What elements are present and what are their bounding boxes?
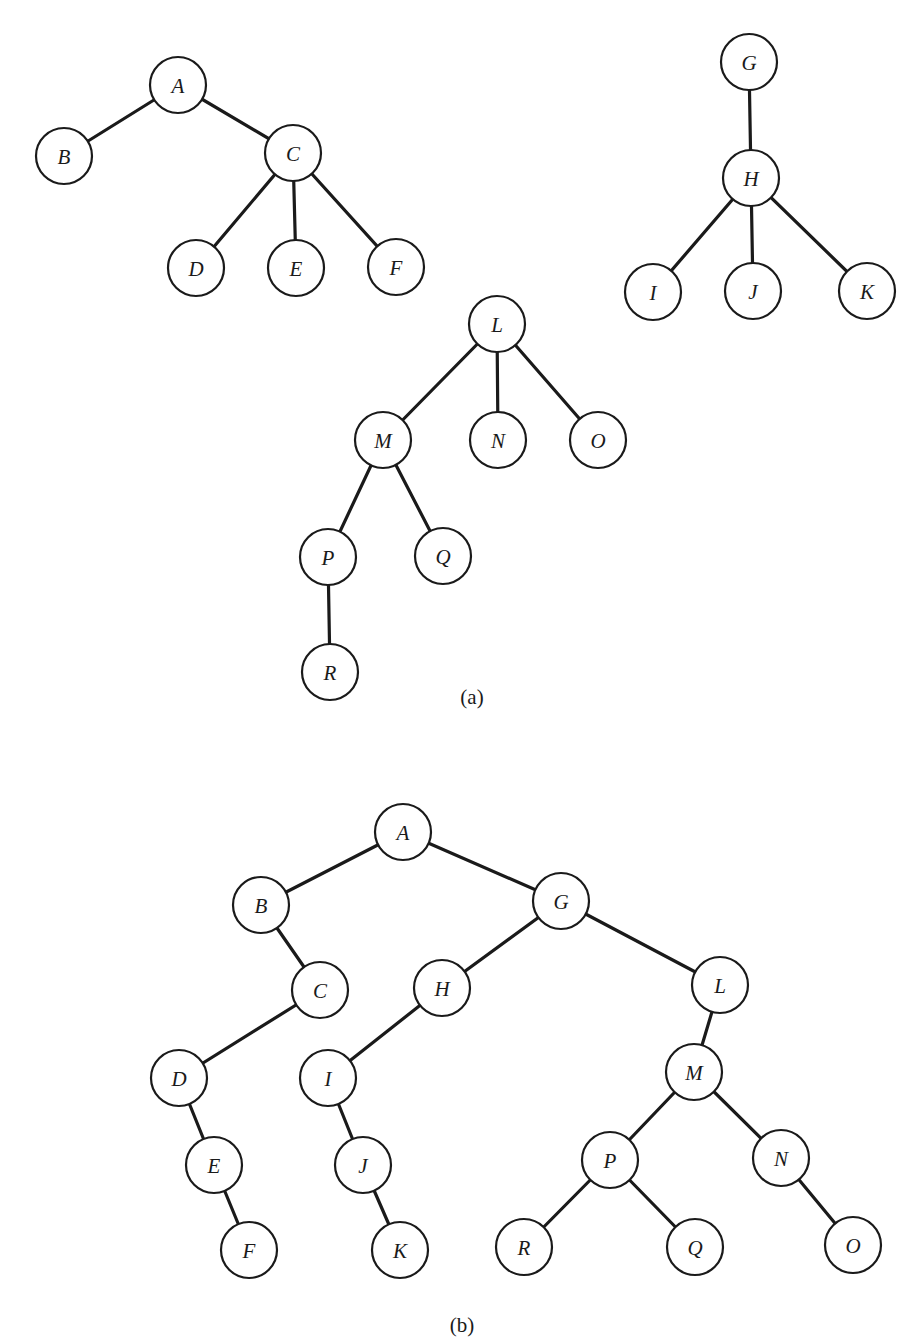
node-label: A xyxy=(170,74,185,98)
node-label: F xyxy=(242,1239,256,1263)
node-label: G xyxy=(741,51,756,75)
node-label: P xyxy=(603,1149,617,1173)
tree-node-f: F xyxy=(221,1222,277,1278)
tree-node-i: I xyxy=(300,1050,356,1106)
tree-node-b: B xyxy=(233,877,289,933)
tree-node-o: O xyxy=(825,1217,881,1273)
node-label: E xyxy=(207,1154,221,1178)
node-label: L xyxy=(713,974,726,998)
node-label: N xyxy=(490,429,506,453)
node-label: M xyxy=(684,1061,704,1085)
tree-node-h: H xyxy=(723,150,779,206)
tree-node-m: M xyxy=(355,412,411,468)
tree-node-g: G xyxy=(721,34,777,90)
node-label: P xyxy=(321,546,335,570)
tree-node-k: K xyxy=(372,1222,428,1278)
node-label: I xyxy=(324,1067,333,1091)
panel-b-caption: (b) xyxy=(450,1313,475,1337)
tree-node-j: J xyxy=(335,1137,391,1193)
node-label: M xyxy=(373,429,393,453)
tree-node-l: L xyxy=(692,957,748,1013)
tree-node-f: F xyxy=(368,239,424,295)
tree-node-e: E xyxy=(186,1137,242,1193)
tree-node-h: H xyxy=(414,960,470,1016)
node-label: A xyxy=(395,821,410,845)
node-label: L xyxy=(490,313,503,337)
tree-node-o: O xyxy=(570,412,626,468)
tree-node-c: C xyxy=(265,125,321,181)
node-label: H xyxy=(433,977,451,1001)
node-label: F xyxy=(389,256,403,280)
tree-node-p: P xyxy=(582,1132,638,1188)
node-label: R xyxy=(323,661,337,685)
tree-node-q: Q xyxy=(415,528,471,584)
node-label: E xyxy=(289,257,303,281)
node-label: O xyxy=(590,429,605,453)
tree-node-r: R xyxy=(496,1219,552,1275)
node-label: D xyxy=(187,257,203,281)
node-label: B xyxy=(255,894,268,918)
tree-node-g: G xyxy=(533,873,589,929)
tree-node-n: N xyxy=(470,412,526,468)
tree-node-r: R xyxy=(302,644,358,700)
tree-node-a: A xyxy=(150,57,206,113)
tree-node-a: A xyxy=(375,804,431,860)
panel-a-forest: ABCDEFGHIJKLMNOPQR (a) xyxy=(36,34,895,709)
tree-node-b: B xyxy=(36,128,92,184)
tree-node-p: P xyxy=(300,529,356,585)
tree-diagram: ABCDEFGHIJKLMNOPQR (a) ABGCHLDIMEJPNFKRQ… xyxy=(0,0,922,1344)
tree-node-q: Q xyxy=(667,1219,723,1275)
tree-node-j: J xyxy=(725,263,781,319)
node-label: C xyxy=(286,142,301,166)
node-label: H xyxy=(742,167,760,191)
tree-node-d: D xyxy=(151,1050,207,1106)
node-label: N xyxy=(773,1147,789,1171)
panel-b-nodes: ABGCHLDIMEJPNFKRQO xyxy=(151,804,881,1278)
node-label: K xyxy=(859,280,875,304)
tree-node-n: N xyxy=(753,1130,809,1186)
node-label: Q xyxy=(435,545,450,569)
node-label: C xyxy=(313,979,328,1003)
tree-node-m: M xyxy=(666,1044,722,1100)
node-label: G xyxy=(553,890,568,914)
node-label: D xyxy=(170,1067,186,1091)
node-label: R xyxy=(517,1236,531,1260)
node-label: O xyxy=(845,1234,860,1258)
node-label: K xyxy=(392,1239,408,1263)
panel-a-caption: (a) xyxy=(460,685,483,709)
node-label: B xyxy=(58,145,71,169)
tree-node-l: L xyxy=(469,296,525,352)
tree-node-i: I xyxy=(625,264,681,320)
node-label: Q xyxy=(687,1236,702,1260)
panel-a-nodes: ABCDEFGHIJKLMNOPQR xyxy=(36,34,895,700)
tree-node-k: K xyxy=(839,263,895,319)
node-label: I xyxy=(649,281,658,305)
tree-node-d: D xyxy=(168,240,224,296)
tree-node-e: E xyxy=(268,240,324,296)
panel-b-binary-tree: ABGCHLDIMEJPNFKRQO (b) xyxy=(151,804,881,1337)
tree-node-c: C xyxy=(292,962,348,1018)
